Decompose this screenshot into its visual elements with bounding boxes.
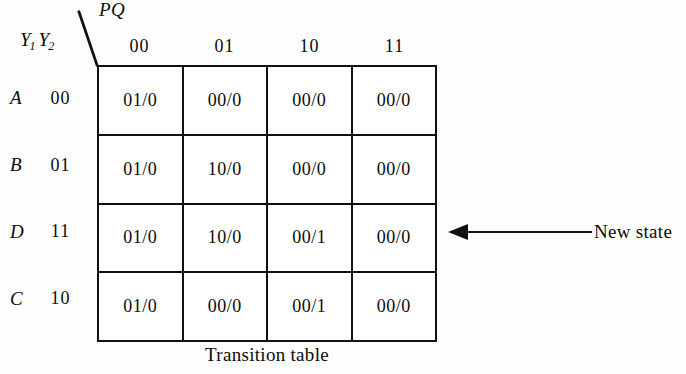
row-axis-subscript-2: 2 bbox=[48, 39, 56, 53]
column-axis-label: PQ bbox=[99, 0, 125, 21]
cell-r1-c3: 00/0 bbox=[352, 135, 437, 204]
row-label-0: A 00 bbox=[0, 65, 97, 132]
row-axis-label-y1: Y bbox=[20, 29, 31, 50]
row-label-1: B 01 bbox=[0, 132, 97, 199]
row-axis-subscript-1: 1 bbox=[30, 39, 38, 53]
new-state-arrow-icon bbox=[444, 216, 594, 248]
row-state-0: A bbox=[0, 87, 42, 109]
row-code-3: 10 bbox=[42, 288, 97, 309]
column-header-3: 11 bbox=[352, 33, 437, 59]
new-state-annotation-label: New state bbox=[594, 219, 672, 245]
cell-r3-c3: 00/0 bbox=[352, 272, 437, 341]
table-row: 01/0 00/0 00/0 00/0 bbox=[98, 66, 436, 135]
table-row: 01/0 10/0 00/0 00/0 bbox=[98, 135, 436, 204]
cell-r0-c3: 00/0 bbox=[352, 66, 437, 135]
row-state-2: D bbox=[0, 221, 42, 243]
cell-r0-c1: 00/0 bbox=[183, 66, 268, 135]
cell-r3-c2: 00/1 bbox=[267, 272, 352, 341]
cell-r2-c2: 00/1 bbox=[267, 204, 352, 273]
cell-r3-c1: 00/0 bbox=[183, 272, 268, 341]
figure-caption: Transition table bbox=[97, 343, 437, 367]
cell-r3-c0: 01/0 bbox=[98, 272, 183, 341]
column-header-2: 10 bbox=[267, 33, 352, 59]
row-axis-label: Y1Y2 bbox=[20, 28, 57, 54]
row-state-1: B bbox=[0, 154, 42, 176]
transition-table-grid: 01/0 00/0 00/0 00/0 01/0 10/0 00/0 00/0 … bbox=[97, 65, 437, 342]
column-header-0: 00 bbox=[97, 33, 182, 59]
cell-r1-c0: 01/0 bbox=[98, 135, 183, 204]
column-header-1: 01 bbox=[182, 33, 267, 59]
cell-r0-c0: 01/0 bbox=[98, 66, 183, 135]
transition-table-figure: PQ Y1Y2 00 01 10 11 A 00 B 01 D 11 C 10 bbox=[0, 0, 686, 374]
row-label-column: A 00 B 01 D 11 C 10 bbox=[0, 65, 97, 332]
row-code-1: 01 bbox=[42, 155, 97, 176]
cell-r2-c0: 01/0 bbox=[98, 204, 183, 273]
table-row: 01/0 00/0 00/1 00/0 bbox=[98, 272, 436, 341]
cell-r1-c2: 00/0 bbox=[267, 135, 352, 204]
cell-r2-c1: 10/0 bbox=[183, 204, 268, 273]
cell-r1-c1: 10/0 bbox=[183, 135, 268, 204]
cell-r2-c3: 00/0 bbox=[352, 204, 437, 273]
row-label-3: C 10 bbox=[0, 265, 97, 332]
column-header-row: 00 01 10 11 bbox=[97, 33, 437, 59]
cell-r0-c2: 00/0 bbox=[267, 66, 352, 135]
row-state-3: C bbox=[0, 288, 42, 310]
row-code-2: 11 bbox=[42, 221, 97, 242]
row-label-2: D 11 bbox=[0, 199, 97, 266]
table-row: 01/0 10/0 00/1 00/0 bbox=[98, 204, 436, 273]
row-code-0: 00 bbox=[42, 88, 97, 109]
